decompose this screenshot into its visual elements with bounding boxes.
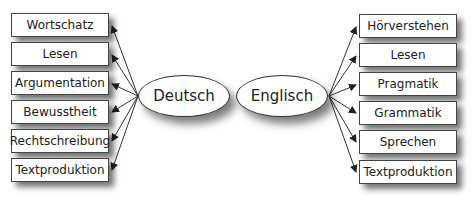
arrow-grammatik (329, 96, 356, 113)
node-bewusstheit: Bewusstheit (11, 100, 109, 124)
node-englisch: Englisch (236, 75, 328, 117)
node-textproduktion-de: Textproduktion (11, 158, 109, 182)
node-argumentation: Argumentation (11, 71, 109, 95)
node-sprechen: Sprechen (359, 130, 457, 154)
node-lesen-en: Lesen (359, 43, 457, 67)
node-hoerverstehen: Hörverstehen (359, 14, 457, 38)
arrow-bewusstheit (112, 96, 138, 112)
node-wortschatz: Wortschatz (11, 13, 109, 37)
node-pragmatik: Pragmatik (359, 72, 457, 96)
node-grammatik: Grammatik (359, 101, 457, 125)
node-textproduktion-en: Textproduktion (359, 160, 457, 184)
arrow-textproduktion-en (329, 96, 356, 172)
arrow-textproduktion-de (112, 96, 138, 170)
node-lesen-de: Lesen (11, 42, 109, 66)
node-deutsch: Deutsch (138, 75, 230, 117)
node-rechtschreibung: Rechtschreibung (11, 129, 109, 153)
